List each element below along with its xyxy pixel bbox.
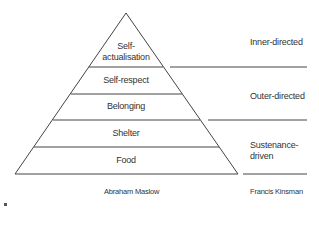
level-belonging: Belonging	[76, 101, 176, 112]
category-inner-directed: Inner-directed	[250, 37, 303, 48]
caption-francis-kinsman: Francis Kinsman	[250, 187, 303, 196]
category-label-line2: driven	[250, 151, 298, 162]
corner-mark	[4, 203, 7, 206]
level-label-line2: actualisation	[86, 52, 166, 63]
category-label-line1: Sustenance-	[250, 140, 298, 151]
level-self-respect: Self-respect	[76, 75, 176, 86]
level-food: Food	[76, 155, 176, 166]
category-sustenance-driven: Sustenance- driven	[250, 140, 298, 162]
category-outer-directed: Outer-directed	[250, 91, 305, 102]
caption-abraham-maslow: Abraham Maslow	[104, 187, 159, 196]
level-self-actualisation: Self- actualisation	[86, 41, 166, 63]
level-shelter: Shelter	[76, 128, 176, 139]
level-label-line1: Self-	[86, 41, 166, 52]
